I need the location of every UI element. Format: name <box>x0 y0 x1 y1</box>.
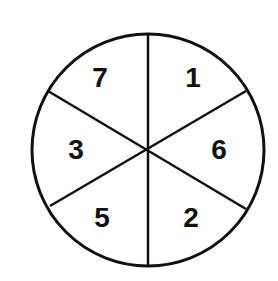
sector-label-top-left: 7 <box>92 62 108 93</box>
sector-label-left: 3 <box>68 134 84 165</box>
sector-label-right: 6 <box>211 134 227 165</box>
spinner-diagram: 7 1 3 6 5 2 <box>0 0 278 281</box>
sector-label-top-right: 1 <box>185 62 201 93</box>
sector-label-bottom-left: 5 <box>94 202 110 233</box>
sector-label-bottom-right: 2 <box>183 202 199 233</box>
